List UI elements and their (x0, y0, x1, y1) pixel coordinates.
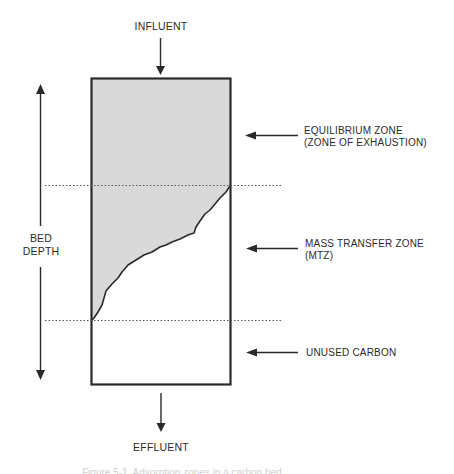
unused-carbon-line1: UNUSED CARBON (306, 347, 396, 359)
unused-carbon-label: UNUSED CARBON (306, 347, 396, 359)
mtz-arrowhead-icon (246, 245, 257, 253)
bed-depth-label: BED DEPTH (10, 232, 72, 258)
equilibrium-zone-line2: (ZONE OF EXHAUSTION) (304, 137, 427, 149)
figure-caption: Figure 5-1. Adsorption zones in a carbon… (82, 466, 382, 474)
equilibrium-zone-line1: EQUILIBRIUM ZONE (304, 125, 427, 137)
unused-carbon-arrowhead-icon (246, 349, 257, 357)
equilibrium-zone-arrowhead-icon (245, 132, 256, 140)
mtz-line1: MASS TRANSFER ZONE (305, 238, 424, 250)
mtz-label: MASS TRANSFER ZONE (MTZ) (305, 238, 424, 262)
bed-depth-down-arrowhead-icon (36, 370, 45, 380)
adsorption-column-diagram: INFLUENT EFFLUENT BED DEPTH EQUILIBRIUM … (0, 0, 454, 474)
bed-depth-up-arrowhead-icon (36, 84, 45, 94)
bed-depth-line2: DEPTH (10, 245, 72, 258)
mtz-line2: (MTZ) (305, 250, 424, 262)
bed-depth-line1: BED (10, 232, 72, 245)
effluent-label: EFFLUENT (120, 441, 202, 453)
influent-arrowhead-icon (156, 66, 165, 75)
influent-label: INFLUENT (120, 20, 202, 32)
equilibrium-zone-label: EQUILIBRIUM ZONE (ZONE OF EXHAUSTION) (304, 125, 427, 149)
effluent-arrowhead-icon (157, 423, 166, 432)
